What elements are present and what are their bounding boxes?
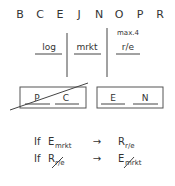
group-box-en: E N bbox=[97, 87, 163, 108]
letter: R bbox=[156, 8, 164, 21]
arrow-icon: → bbox=[93, 136, 101, 147]
rule-condition-main: R bbox=[48, 153, 55, 164]
letter: B bbox=[16, 8, 24, 21]
letter: O bbox=[115, 8, 124, 21]
rule-result-main: R bbox=[118, 136, 125, 147]
letter: P bbox=[137, 8, 144, 21]
box-item: C bbox=[63, 93, 69, 103]
rule-result-main: E bbox=[118, 153, 124, 164]
box-item: E bbox=[110, 93, 116, 103]
letter: E bbox=[57, 8, 64, 21]
column-annotation-max: max.4 bbox=[117, 29, 139, 37]
rule-result-sub: r/e bbox=[125, 142, 135, 150]
rule-condition-sub: mrkt bbox=[55, 142, 72, 150]
letter: J bbox=[76, 8, 80, 21]
column-label-log: log bbox=[42, 42, 56, 52]
arrow-icon: → bbox=[93, 153, 101, 164]
letter: C bbox=[36, 8, 44, 21]
rule-result-sub: mrkt bbox=[125, 159, 142, 167]
column-headers: log mrkt max.4 r/e bbox=[35, 28, 140, 77]
letter: N bbox=[95, 8, 103, 21]
logic-puzzle-diagram: B C E J N O P R log mrkt max.4 r/e P C E… bbox=[0, 0, 175, 186]
rule-condition-main: E bbox=[48, 136, 54, 147]
column-label-re: r/e bbox=[122, 42, 135, 52]
box-item: N bbox=[142, 93, 149, 103]
rule-keyword: If bbox=[34, 136, 41, 147]
box-outline bbox=[20, 87, 86, 108]
rule-row: If E mrkt → R r/e bbox=[34, 136, 135, 150]
letter-row: B C E J N O P R bbox=[16, 8, 164, 21]
column-label-mrkt: mrkt bbox=[76, 42, 98, 52]
group-box-pc: P C bbox=[10, 83, 88, 110]
rule-keyword: If bbox=[34, 153, 41, 164]
rule-row: If R r/e → E mrkt bbox=[34, 153, 142, 168]
box-outline bbox=[97, 87, 163, 108]
